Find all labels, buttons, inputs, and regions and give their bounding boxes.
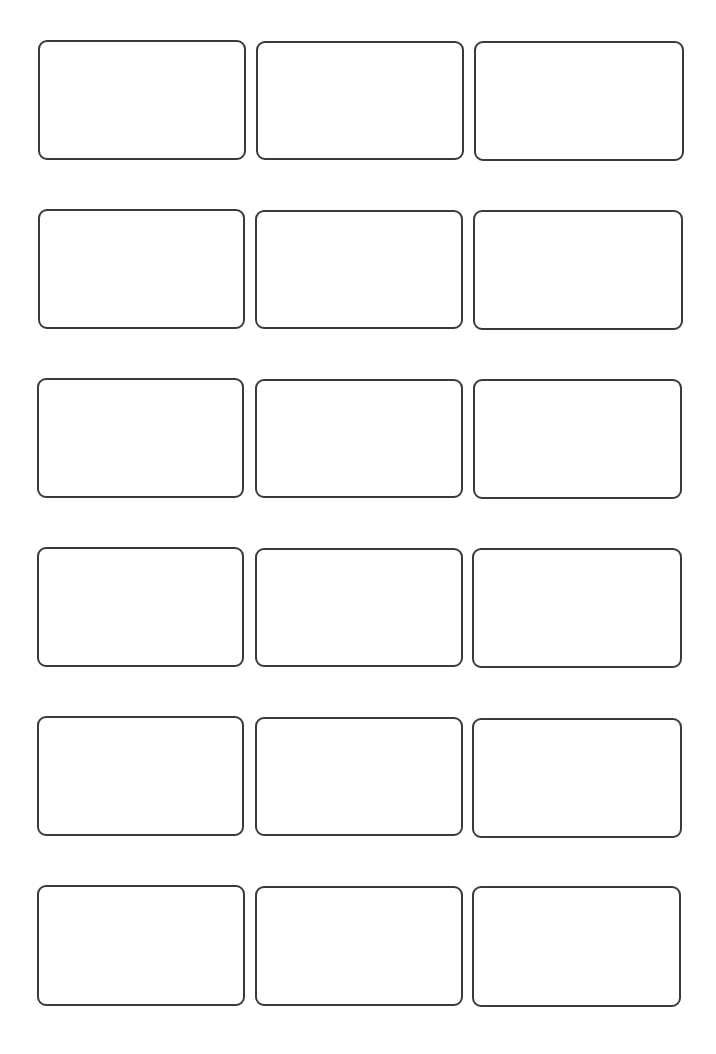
label-cell-r1-c1 xyxy=(38,40,246,160)
label-cell-r5-c3 xyxy=(472,718,682,838)
label-cell-r6-c2 xyxy=(255,886,463,1006)
label-text xyxy=(257,550,461,665)
label-cell-r3-c1 xyxy=(37,378,244,498)
label-cell-r5-c2 xyxy=(255,717,463,836)
label-cell-r3-c2 xyxy=(255,379,463,498)
label-text xyxy=(40,42,244,158)
label-cell-r2-c3 xyxy=(473,210,683,330)
label-text xyxy=(474,720,680,836)
label-cell-r2-c1 xyxy=(38,209,245,329)
label-cell-r1-c3 xyxy=(474,41,684,161)
label-cell-r1-c2 xyxy=(256,41,464,160)
label-cell-r4-c3 xyxy=(472,548,682,668)
label-sheet xyxy=(0,0,716,1054)
label-text xyxy=(257,888,461,1004)
label-text xyxy=(39,549,242,665)
label-text xyxy=(257,381,461,496)
label-text xyxy=(474,888,679,1005)
label-text xyxy=(474,550,680,666)
label-text xyxy=(39,718,242,834)
label-cell-r2-c2 xyxy=(255,210,463,329)
label-cell-r4-c2 xyxy=(255,548,463,667)
label-text xyxy=(39,380,242,496)
label-text xyxy=(39,887,243,1004)
label-text xyxy=(475,381,680,497)
label-cell-r3-c3 xyxy=(473,379,682,499)
label-cell-r6-c3 xyxy=(472,886,681,1007)
label-text xyxy=(476,43,682,159)
label-cell-r4-c1 xyxy=(37,547,244,667)
label-text xyxy=(257,212,461,327)
label-text xyxy=(40,211,243,327)
label-text xyxy=(475,212,681,328)
label-cell-r5-c1 xyxy=(37,716,244,836)
label-cell-r6-c1 xyxy=(37,885,245,1006)
label-text xyxy=(258,43,462,158)
label-text xyxy=(257,719,461,834)
